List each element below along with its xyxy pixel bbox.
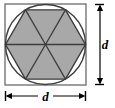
width-dimension-label: d bbox=[42, 89, 49, 104]
geometry-figure: d d bbox=[0, 0, 115, 108]
height-dimension-label: d bbox=[102, 37, 109, 52]
figure-canvas: d d bbox=[0, 0, 115, 108]
